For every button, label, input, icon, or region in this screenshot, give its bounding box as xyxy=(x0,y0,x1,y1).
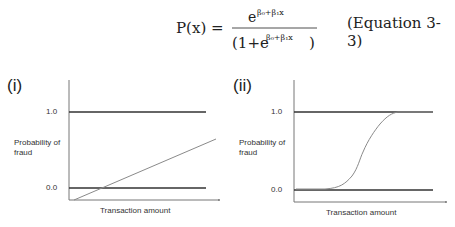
panel-label-i: (i) xyxy=(7,76,22,96)
x-axis-arrow-icon xyxy=(218,199,220,201)
chart-linear xyxy=(69,80,220,201)
y-axis-label: Probability of fraud xyxy=(239,138,291,158)
x-axis-arrow-icon xyxy=(445,201,447,203)
ytick-0: 0.0 xyxy=(271,185,282,194)
charts-canvas xyxy=(0,0,455,227)
ytick-1: 1.0 xyxy=(271,107,282,116)
chart-logistic xyxy=(294,80,447,203)
x-axis-label: Transaction amount xyxy=(326,208,396,217)
x-axis-label: Transaction amount xyxy=(100,206,170,215)
ytick-1: 1.0 xyxy=(46,107,57,116)
linear-regression-line xyxy=(74,139,216,200)
y-axis-label: Probability of fraud xyxy=(14,138,66,158)
ytick-0: 0.0 xyxy=(46,183,57,192)
sigmoid-curve xyxy=(296,112,433,189)
panel-label-ii: (ii) xyxy=(233,76,252,96)
